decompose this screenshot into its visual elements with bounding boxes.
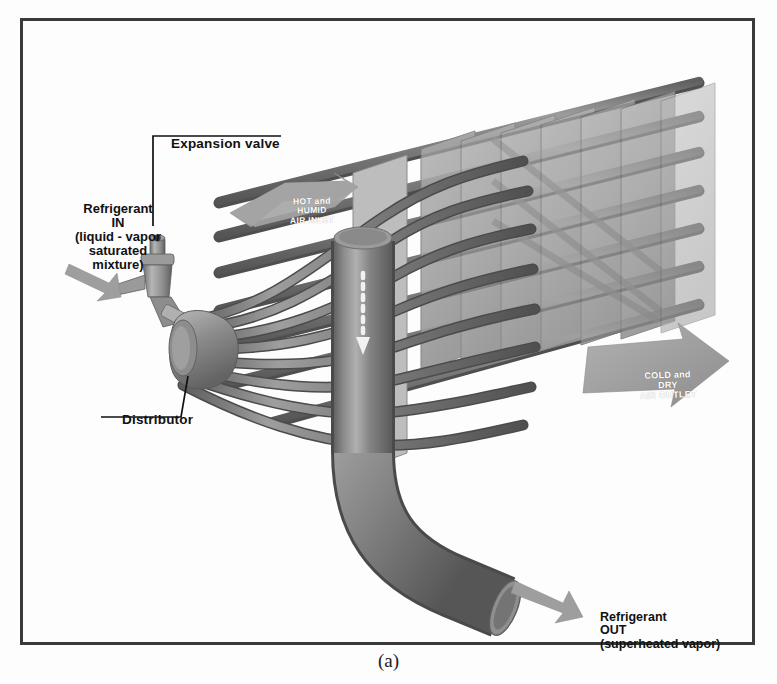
label-cold-dry-air-outlet: COLD and DRY AIR OUTLET [625,370,712,403]
label-hot-humid-air-inlet: HOT and HUMID AIR INLET [275,196,349,225]
figure-page: Expansion valve Refrigerant IN (liquid -… [0,0,777,684]
label-distributor: Distributor [122,413,193,427]
refrigerant-out-arrow [511,581,583,623]
evaporator-diagram [23,21,752,642]
label-expansion-valve: Expansion valve [171,137,280,151]
figure-caption: (a) [0,650,777,672]
distributor-cone [169,311,238,390]
fin-plate [661,83,715,333]
figure-frame: Expansion valve Refrigerant IN (liquid -… [20,18,755,645]
leader-line-distributor [101,376,188,417]
label-refrigerant-in: Refrigerant IN (liquid - vapor saturated… [59,202,177,272]
